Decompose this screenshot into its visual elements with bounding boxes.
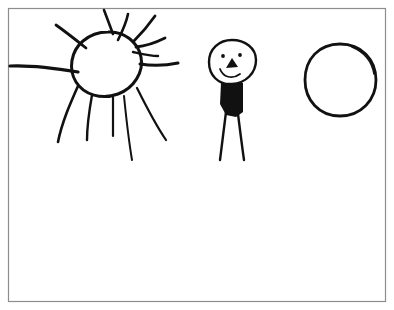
drawing-canvas: Child's crayon-style ink drawing sun or … [0, 0, 394, 310]
eye-left-icon [221, 54, 225, 58]
page-background [0, 0, 394, 310]
eye-right-icon [238, 53, 242, 57]
drawing-surface [0, 0, 394, 310]
